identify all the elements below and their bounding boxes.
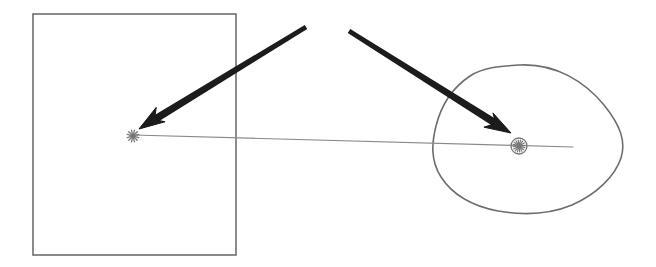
diagram-canvas: Reference-frame alignment diagram bold a… — [0, 0, 656, 267]
technical-diagram-svg — [0, 0, 656, 267]
diagram-background — [0, 0, 656, 267]
